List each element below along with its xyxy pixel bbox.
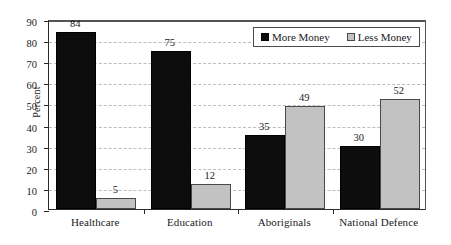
y-tick-label-30: 30 — [13, 143, 37, 154]
y-tick-50: 50 — [44, 105, 49, 106]
x-axis-label-aboriginals: Aboriginals — [258, 216, 311, 228]
y-tick-label-90: 90 — [13, 17, 37, 28]
x-axis-label-healthcare: Healthcare — [71, 216, 120, 228]
bar-value-label-education-more-money: 75 — [165, 37, 176, 48]
y-tick-label-20: 20 — [13, 164, 37, 175]
x-tick-1 — [144, 209, 145, 214]
bar-education-less-money — [191, 184, 231, 209]
y-tick-20: 20 — [44, 169, 49, 170]
y-tick-label-70: 70 — [13, 59, 37, 70]
x-tick-3 — [333, 209, 334, 214]
y-tick-label-80: 80 — [13, 38, 37, 49]
gray-square-swatch-icon — [347, 33, 355, 41]
gridline-70 — [49, 63, 425, 64]
bar-healthcare-less-money — [96, 198, 136, 209]
x-tick-2 — [238, 209, 239, 214]
y-tick-70: 70 — [44, 63, 49, 64]
bar-value-label-national-defence-more-money: 30 — [354, 132, 365, 143]
bar-value-label-aboriginals-more-money: 35 — [259, 121, 270, 132]
bar-value-label-aboriginals-less-money: 49 — [299, 92, 310, 103]
legend-item-more-money[interactable]: More Money — [261, 31, 330, 43]
y-tick-10: 10 — [44, 190, 49, 191]
bar-aboriginals-less-money — [285, 106, 325, 209]
bar-value-label-education-less-money: 12 — [205, 170, 216, 181]
y-tick-label-60: 60 — [13, 80, 37, 91]
y-tick-90: 90 — [44, 21, 49, 22]
x-axis-label-national-defence: National Defence — [339, 216, 418, 228]
legend-label-less-money: Less Money — [358, 31, 412, 43]
gridline-50 — [49, 105, 425, 106]
bar-value-label-healthcare-more-money: 84 — [70, 18, 81, 29]
black-square-swatch-icon — [261, 33, 269, 41]
plot-area: 0102030405060708090 — [48, 20, 426, 210]
bar-value-label-national-defence-less-money: 52 — [394, 85, 405, 96]
y-tick-0: 0 — [44, 211, 49, 212]
legend-item-less-money[interactable]: Less Money — [347, 31, 412, 43]
y-tick-label-0: 0 — [13, 207, 37, 218]
gridline-60 — [49, 84, 425, 85]
bar-chart: Percent 0102030405060708090 845751235493… — [0, 0, 451, 245]
y-tick-label-10: 10 — [13, 185, 37, 196]
bar-aboriginals-more-money — [245, 135, 285, 209]
bar-healthcare-more-money — [56, 32, 96, 209]
x-axis-label-education: Education — [167, 216, 213, 228]
legend-label-more-money: More Money — [272, 31, 330, 43]
y-tick-60: 60 — [44, 84, 49, 85]
legend: More Money Less Money — [253, 27, 420, 47]
gridline-40 — [49, 127, 425, 128]
bar-education-more-money — [151, 51, 191, 209]
y-tick-30: 30 — [44, 148, 49, 149]
bar-national-defence-less-money — [380, 99, 420, 209]
bar-national-defence-more-money — [340, 146, 380, 209]
bar-value-label-healthcare-less-money: 5 — [113, 184, 118, 195]
y-tick-40: 40 — [44, 127, 49, 128]
gridline-90 — [49, 21, 425, 22]
y-tick-label-40: 40 — [13, 122, 37, 133]
y-tick-label-50: 50 — [13, 101, 37, 112]
y-tick-80: 80 — [44, 42, 49, 43]
